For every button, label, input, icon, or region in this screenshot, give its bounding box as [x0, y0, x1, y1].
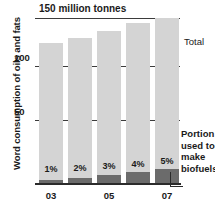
bar-07: 5%: [155, 18, 179, 184]
y-axis-title: Word consumption of oils and fats: [11, 14, 22, 174]
x-tick-label-07: 07: [155, 190, 179, 201]
bar-06-percent-label: 4%: [126, 159, 150, 169]
bar-03: 1%: [39, 43, 63, 184]
gridline-100-label: 100: [14, 52, 30, 63]
portion-annotation-line-2: used to: [181, 140, 215, 152]
portion-annotation-line-3: make: [181, 151, 215, 163]
portion-annotation-label: Portion used to make biofuels: [181, 128, 215, 174]
bar-06: 4%: [126, 23, 150, 184]
portion-annotation-line-1: Portion: [181, 128, 215, 140]
plot-area: 150 million tonnes 100 50 1% 2% 3% 4%: [35, 0, 180, 184]
bar-04: 2%: [68, 38, 92, 184]
bar-05-percent-label: 3%: [97, 161, 121, 171]
bar-07-percent-label: 5%: [155, 156, 179, 166]
x-tick-label-05: 05: [97, 190, 121, 201]
bar-05: 3%: [97, 31, 121, 184]
portion-annotation-line-4: biofuels: [181, 163, 215, 175]
total-annotation-label: Total: [184, 36, 204, 47]
x-tick-label-03: 03: [39, 190, 63, 201]
portion-annotation-leader-bracket: [170, 172, 183, 187]
bar-03-percent-label: 1%: [39, 164, 63, 174]
chart-container: Word consumption of oils and fats 150 mi…: [0, 0, 215, 217]
gridline-50-label: 50: [14, 106, 25, 117]
x-axis-baseline: [35, 183, 181, 185]
gridline-150-label: 150 million tonnes: [39, 3, 126, 14]
bar-04-percent-label: 2%: [68, 163, 92, 173]
